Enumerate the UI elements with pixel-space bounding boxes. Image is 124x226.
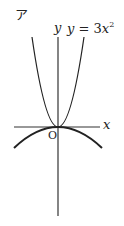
curve-label-exp: 2 xyxy=(109,20,114,29)
curve-label-eq: = 3 xyxy=(74,21,101,36)
curve-equation-label: y = 3x2 xyxy=(67,21,114,35)
panel-label: ア xyxy=(15,8,28,21)
graph-figure: ア y y = 3x2 x O xyxy=(0,0,124,226)
origin-label: O xyxy=(48,130,57,141)
y-axis-label: y xyxy=(54,21,61,34)
x-axis-label: x xyxy=(103,118,110,131)
